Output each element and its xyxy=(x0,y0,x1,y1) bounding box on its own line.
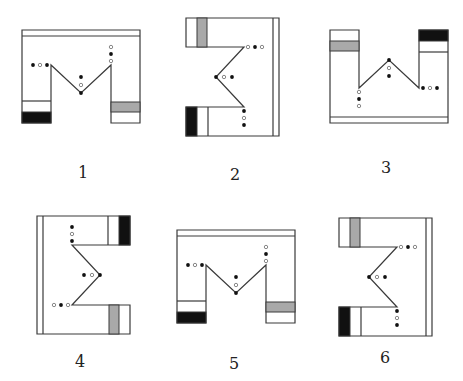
figure-3 xyxy=(330,30,448,123)
figure-label-4: 4 xyxy=(75,352,85,371)
figure-label-5: 5 xyxy=(229,354,239,373)
figure-canvas xyxy=(0,0,463,381)
figure-label-2: 2 xyxy=(230,165,240,184)
figure-5 xyxy=(177,230,295,323)
figure-2 xyxy=(186,18,279,136)
figure-label-6: 6 xyxy=(380,348,390,367)
figure-label-1: 1 xyxy=(78,163,88,182)
figure-label-3: 3 xyxy=(381,158,391,177)
figure-6 xyxy=(339,218,432,336)
figure-4 xyxy=(37,216,130,334)
figure-1 xyxy=(22,30,140,123)
